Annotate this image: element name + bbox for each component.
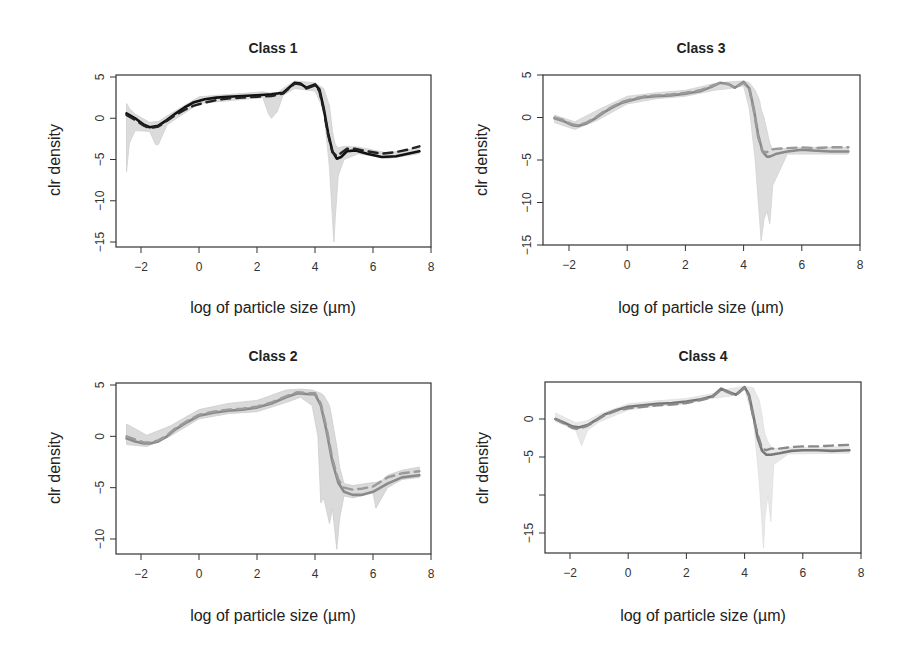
- x-tick-label: 2: [683, 566, 690, 580]
- x-tick-label: 4: [740, 258, 747, 272]
- x-tick-label: 0: [624, 258, 631, 272]
- x-tick-label: 0: [196, 260, 203, 274]
- axes: −2024680−5−15: [522, 382, 865, 580]
- y-tick-label: 5: [93, 381, 107, 388]
- y-tick-label: −5: [520, 153, 534, 167]
- x-tick-label: 2: [254, 567, 261, 581]
- panel-title: Class 4: [678, 348, 727, 364]
- y-tick-label: 0: [93, 433, 107, 440]
- x-tick-label: 6: [370, 260, 377, 274]
- x-tick-label: −2: [134, 567, 148, 581]
- x-tick-label: 6: [370, 567, 377, 581]
- x-tick-label: 6: [799, 566, 806, 580]
- y-tick-label: 5: [520, 71, 534, 78]
- panel-title: Class 2: [248, 348, 297, 364]
- y-tick-label: −15: [93, 231, 107, 252]
- y-axis-label: clr density: [46, 124, 63, 196]
- y-axis-label: clr density: [46, 432, 63, 504]
- x-tick-label: −2: [134, 260, 148, 274]
- y-tick-label: −10: [93, 528, 107, 549]
- panel-title: Class 3: [676, 40, 725, 56]
- x-tick-label: 8: [857, 258, 864, 272]
- y-axis-label: clr density: [473, 124, 490, 196]
- y-tick-label: 0: [93, 115, 107, 122]
- plot-frame: [543, 75, 860, 245]
- sample-band: [127, 81, 420, 242]
- plot-frame: [545, 382, 861, 553]
- x-tick-label: 4: [312, 567, 319, 581]
- panel-class1: Class 1 −20246850−5−10−15 log of particl…: [46, 40, 435, 316]
- y-tick-label: −10: [520, 192, 534, 213]
- y-tick-label: 0: [522, 415, 536, 422]
- x-axis-label: log of particle size (µm): [620, 607, 786, 624]
- class-mean-line: [127, 393, 420, 495]
- x-tick-label: 8: [428, 567, 435, 581]
- panel-title: Class 1: [248, 40, 297, 56]
- x-tick-label: 4: [741, 566, 748, 580]
- x-tick-label: 8: [428, 260, 435, 274]
- plot-area: [556, 386, 850, 548]
- x-tick-label: 0: [625, 566, 632, 580]
- x-axis-label: log of particle size (µm): [618, 299, 784, 316]
- y-tick-label: 0: [520, 114, 534, 121]
- plot-area: [127, 389, 420, 549]
- x-axis-label: log of particle size (µm): [190, 299, 356, 316]
- x-tick-label: 2: [254, 260, 261, 274]
- plot-area: [127, 81, 420, 242]
- y-tick-label: −5: [93, 152, 107, 166]
- y-tick-label: −10: [93, 190, 107, 211]
- y-tick-label: −15: [520, 234, 534, 255]
- plot-area: [555, 81, 849, 241]
- sample-band: [556, 386, 850, 548]
- x-axis-label: log of particle size (µm): [190, 607, 356, 624]
- sample-band: [555, 81, 849, 241]
- y-tick-label: −5: [93, 481, 107, 495]
- sample-band: [127, 389, 420, 549]
- panel-class2: Class 2 −20246850−5−10 log of particle s…: [46, 348, 435, 624]
- y-axis-label: clr density: [474, 432, 491, 504]
- x-tick-label: 8: [858, 566, 865, 580]
- panel-class4: Class 4 −2024680−5−15 log of particle si…: [474, 348, 865, 624]
- reference-dashed-line: [127, 84, 420, 157]
- figure-canvas: Class 1 −20246850−5−10−15 log of particl…: [0, 0, 904, 660]
- x-tick-label: 4: [312, 260, 319, 274]
- axes: −20246850−5−10−15: [520, 71, 864, 272]
- x-tick-label: 6: [798, 258, 805, 272]
- y-tick-label: −15: [522, 522, 536, 543]
- panel-class3: Class 3 −20246850−5−10−15 log of particl…: [473, 40, 864, 316]
- axes: −20246850−5−10−15: [93, 73, 435, 274]
- x-tick-label: 2: [682, 258, 689, 272]
- x-tick-label: −2: [562, 258, 576, 272]
- y-tick-label: 5: [93, 73, 107, 80]
- x-tick-label: −2: [563, 566, 577, 580]
- plot-frame: [116, 383, 431, 554]
- y-tick-label: −5: [522, 450, 536, 464]
- x-tick-label: 0: [196, 567, 203, 581]
